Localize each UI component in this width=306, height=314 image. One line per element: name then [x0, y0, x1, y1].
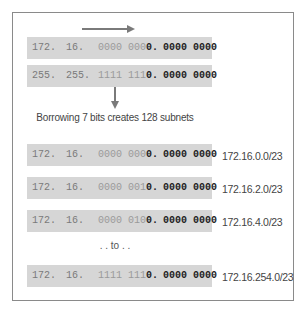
right-arrow-icon — [82, 25, 135, 33]
subnet-label: 172.16.0.0/23 — [222, 150, 282, 162]
octet-3: 0000 0010. — [98, 182, 158, 193]
caption: Borrowing 7 bits creates 128 subnets — [0, 112, 230, 123]
octet-2: 16. — [66, 270, 84, 281]
octet-3-bits: 0000 001 — [98, 182, 146, 193]
subnet-label: 172.16.2.0/23 — [222, 183, 282, 195]
octet-3-last-bit: 0. — [146, 270, 158, 281]
octet-4: 0000 0000 — [163, 215, 217, 226]
octet-3: 1111 1110. — [98, 70, 158, 81]
octet-3-last-bit: 0. — [146, 149, 158, 160]
subnet-row: 172. 16. 0000 0100. 0000 0000 — [27, 210, 212, 232]
octet-3-bits: 1111 111 — [98, 270, 146, 281]
range-separator: . . to . . — [0, 240, 230, 251]
subnet-label: 172.16.4.0/23 — [222, 216, 282, 228]
subnet-row: 172. 16. 0000 0000. 0000 0000 — [27, 144, 212, 166]
octet-1: 172. — [32, 215, 56, 226]
octet-3-bits: 0000 010 — [98, 215, 146, 226]
subnet-row: 172. 16. 1111 1110. 0000 0000 — [27, 265, 212, 287]
octet-3-last-bit: 0. — [146, 182, 158, 193]
octet-4: 0000 0000 — [163, 42, 217, 53]
octet-2: 16. — [66, 149, 84, 160]
subnet-mask-row: 255. 255. 1111 1110. 0000 0000 — [27, 65, 212, 87]
octet-4: 0000 0000 — [163, 182, 217, 193]
octet-1: 172. — [32, 149, 56, 160]
octet-3-last-bit: 0. — [146, 215, 158, 226]
octet-3-bits: 0000 000 — [98, 42, 146, 53]
octet-3-last-bit: 0. — [146, 42, 158, 53]
subnet-row: 172. 16. 0000 0010. 0000 0000 — [27, 177, 212, 199]
octet-2: 16. — [66, 182, 84, 193]
octet-3-bits: 0000 000 — [98, 149, 146, 160]
down-arrow-icon — [111, 87, 119, 109]
octet-3-last-bit: 0. — [146, 70, 158, 81]
octet-4: 0000 0000 — [163, 270, 217, 281]
octet-2: 16. — [66, 42, 84, 53]
subnet-label: 172.16.254.0/23 — [222, 271, 293, 283]
octet-3: 0000 0000. — [98, 149, 158, 160]
octet-4: 0000 0000 — [163, 149, 217, 160]
octet-4: 0000 0000 — [163, 70, 217, 81]
octet-2: 16. — [66, 215, 84, 226]
octet-1: 172. — [32, 42, 56, 53]
octet-3-bits: 1111 111 — [98, 70, 146, 81]
octet-1: 172. — [32, 182, 56, 193]
octet-3: 1111 1110. — [98, 270, 158, 281]
octet-3: 0000 0000. — [98, 42, 158, 53]
octet-3: 0000 0100. — [98, 215, 158, 226]
octet-1: 172. — [32, 270, 56, 281]
octet-1: 255. — [32, 70, 56, 81]
network-address-row: 172. 16. 0000 0000. 0000 0000 — [27, 37, 212, 59]
octet-2: 255. — [66, 70, 90, 81]
